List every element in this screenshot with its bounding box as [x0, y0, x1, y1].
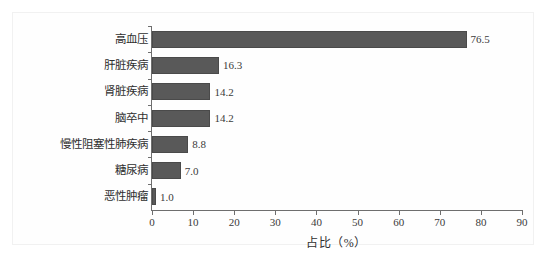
x-axis-title: 占比（%） [0, 233, 547, 251]
category-label: 恶性肿瘤 [8, 188, 148, 205]
y-axis-tick [148, 157, 152, 158]
y-axis-tick [148, 79, 152, 80]
y-axis-tick [148, 26, 152, 27]
x-axis-tick [399, 211, 400, 215]
category-label: 脑卒中 [8, 110, 148, 127]
x-axis-tick-label: 80 [475, 217, 486, 228]
bar[interactable] [152, 188, 156, 205]
x-axis-tick-label: 10 [188, 217, 199, 228]
x-axis-tick [275, 211, 276, 215]
x-axis-tick [193, 211, 194, 215]
x-axis-tick [481, 211, 482, 215]
bar-row: 14.2 [152, 83, 522, 100]
category-label: 肝脏疾病 [8, 57, 148, 74]
bar-value-label: 76.5 [471, 34, 490, 45]
y-axis-tick [148, 131, 152, 132]
x-axis-tick-label: 50 [352, 217, 363, 228]
bar-value-label: 14.2 [214, 86, 233, 97]
y-axis-tick [148, 105, 152, 106]
x-axis-tick [234, 211, 235, 215]
bar[interactable] [152, 110, 210, 127]
bar-value-label: 1.0 [160, 191, 174, 202]
y-axis-tick [148, 52, 152, 53]
x-axis-tick-label: 30 [270, 217, 281, 228]
bar[interactable] [152, 83, 210, 100]
bar[interactable] [152, 162, 181, 179]
x-axis-tick-label: 70 [434, 217, 445, 228]
bar[interactable] [152, 31, 467, 48]
bar-row: 76.5 [152, 31, 522, 48]
x-axis-tick-label: 20 [229, 217, 240, 228]
bar[interactable] [152, 136, 188, 153]
x-axis-tick-label: 60 [393, 217, 404, 228]
category-label: 肾脏疾病 [8, 83, 148, 100]
plot-area: 76.516.314.214.28.87.01.0 [152, 26, 522, 210]
category-axis-labels: 高血压肝脏疾病肾脏疾病脑卒中慢性阻塞性肺疾病糖尿病恶性肿瘤 [4, 26, 148, 210]
bar-row: 7.0 [152, 162, 522, 179]
bar-row: 16.3 [152, 57, 522, 74]
x-axis-line [151, 210, 523, 211]
bar-value-label: 14.2 [214, 113, 233, 124]
bar-value-label: 7.0 [185, 165, 199, 176]
x-axis-title-text: 占比（%） [306, 236, 367, 250]
x-axis-tick [152, 211, 153, 215]
bar[interactable] [152, 57, 219, 74]
x-axis-tick [522, 211, 523, 215]
bar-row: 14.2 [152, 110, 522, 127]
category-label: 高血压 [8, 31, 148, 48]
x-axis-tick-label: 90 [517, 217, 528, 228]
bar-value-label: 16.3 [223, 60, 242, 71]
x-axis-tick [440, 211, 441, 215]
x-axis-tick [316, 211, 317, 215]
x-axis-tick [358, 211, 359, 215]
category-label: 糖尿病 [8, 162, 148, 179]
bar-value-label: 8.8 [192, 139, 206, 150]
bar-row: 8.8 [152, 136, 522, 153]
x-axis-tick-label: 40 [311, 217, 322, 228]
bar-row: 1.0 [152, 188, 522, 205]
x-axis-tick-label: 0 [149, 217, 155, 228]
figure-container: 高血压肝脏疾病肾脏疾病脑卒中慢性阻塞性肺疾病糖尿病恶性肿瘤 76.516.314… [0, 0, 547, 266]
category-label: 慢性阻塞性肺疾病 [8, 136, 148, 153]
y-axis-tick [148, 184, 152, 185]
